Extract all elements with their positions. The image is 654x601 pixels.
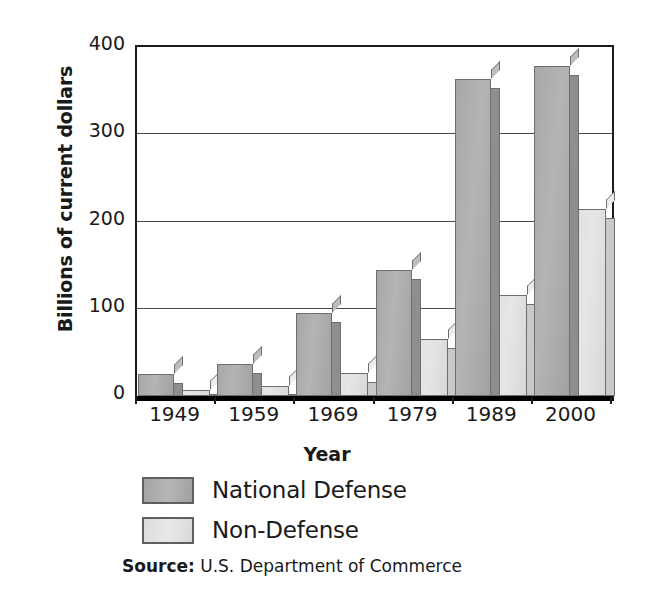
legend-swatch-national-defense bbox=[142, 477, 194, 504]
plot-inner bbox=[137, 47, 612, 396]
bar-chart-figure: Billions of current dollars 010020030040… bbox=[0, 0, 654, 601]
y-tick-label-300: 300 bbox=[55, 119, 125, 141]
bar-front-face bbox=[138, 374, 174, 396]
y-axis-title: Billions of current dollars bbox=[54, 19, 76, 379]
y-tick-label-100: 100 bbox=[55, 294, 125, 316]
x-tick-label-1949: 1949 bbox=[130, 402, 220, 426]
y-tick-label-0: 0 bbox=[55, 381, 125, 403]
legend-item-non-defense: Non-Defense bbox=[142, 513, 562, 547]
bar-1949-national-defense bbox=[138, 374, 174, 396]
bar-1979-national-defense bbox=[376, 270, 412, 397]
bar-front-face bbox=[296, 313, 332, 396]
legend-label-non-defense: Non-Defense bbox=[212, 517, 359, 543]
bar-top-face bbox=[606, 191, 615, 209]
legend-swatch-non-defense bbox=[142, 517, 194, 544]
y-tick-label-400: 400 bbox=[55, 32, 125, 54]
bar-group-2000 bbox=[534, 47, 615, 396]
bar-2000-national-defense bbox=[534, 66, 570, 396]
bar-group-1989 bbox=[455, 47, 536, 396]
legend: National Defense Non-Defense bbox=[142, 473, 562, 553]
bar-top-face bbox=[174, 356, 183, 374]
plot-area bbox=[135, 45, 614, 401]
bar-1959-national-defense bbox=[217, 364, 253, 396]
x-tick-label-2000: 2000 bbox=[525, 402, 615, 426]
bar-side-face bbox=[253, 373, 262, 396]
bar-side-face bbox=[606, 218, 615, 396]
x-tick-label-1979: 1979 bbox=[367, 402, 457, 426]
bar-1989-national-defense bbox=[455, 79, 491, 396]
bar-top-face bbox=[491, 61, 500, 79]
bar-front-face bbox=[455, 79, 491, 396]
x-axis-title: Year bbox=[0, 443, 654, 465]
bar-front-face bbox=[534, 66, 570, 396]
bar-group-1949 bbox=[138, 47, 219, 396]
bar-top-face bbox=[412, 252, 421, 270]
bar-front-face bbox=[376, 270, 412, 397]
bar-group-1979 bbox=[376, 47, 457, 396]
x-tick-label-1969: 1969 bbox=[288, 402, 378, 426]
bar-group-1969 bbox=[296, 47, 377, 396]
bar-front-face bbox=[217, 364, 253, 396]
legend-label-national-defense: National Defense bbox=[212, 477, 407, 503]
bar-side-face bbox=[332, 322, 341, 396]
x-tick-label-1959: 1959 bbox=[209, 402, 299, 426]
bar-side-face bbox=[491, 88, 500, 396]
legend-item-national-defense: National Defense bbox=[142, 473, 562, 507]
bar-1969-national-defense bbox=[296, 313, 332, 396]
bar-top-face bbox=[570, 48, 579, 66]
bar-side-face bbox=[412, 279, 421, 397]
source-caption: Source: U.S. Department of Commerce bbox=[122, 556, 462, 576]
x-tick-label-1989: 1989 bbox=[446, 402, 536, 426]
source-prefix: Source: bbox=[122, 556, 195, 576]
bar-top-face bbox=[332, 295, 341, 313]
bar-group-1959 bbox=[217, 47, 298, 396]
bar-side-face bbox=[174, 383, 183, 396]
bar-side-face bbox=[570, 75, 579, 396]
bar-top-face bbox=[253, 346, 262, 364]
source-text: U.S. Department of Commerce bbox=[200, 556, 462, 576]
y-tick-label-200: 200 bbox=[55, 207, 125, 229]
